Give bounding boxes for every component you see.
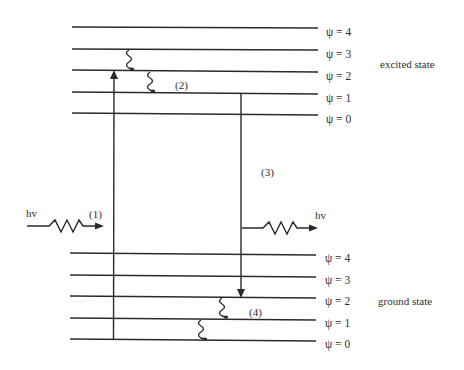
excited-level-0: [72, 113, 318, 115]
photon-in-wave: [27, 220, 98, 232]
relax-dot-ground-1: [224, 315, 228, 318]
excited-level-4: [72, 27, 318, 28]
ground-level-1: [70, 318, 316, 320]
ground-level-3-label: ψ = 3: [325, 274, 350, 286]
step-2-label: (2): [175, 79, 188, 91]
ground-level-1-label: ψ = 1: [325, 317, 350, 329]
ground-level-2: [70, 296, 316, 298]
photon-out-arrowhead: [309, 225, 318, 232]
relax-dot-excited-2: [151, 89, 155, 92]
ground-level-2-label: ψ = 2: [325, 295, 350, 307]
relax-dot-ground-2: [203, 337, 207, 340]
excited-state-label: excited state: [380, 58, 435, 70]
ground-state-label: ground state: [378, 295, 432, 307]
photon-out-wave: [242, 222, 312, 234]
ground-level-0: [70, 339, 316, 341]
excited-level-2: [72, 70, 318, 72]
ground-level-4-label: ψ = 4: [325, 252, 350, 264]
step-3-label: (3): [261, 166, 274, 178]
excited-level-1-label: ψ = 1: [326, 92, 351, 104]
emission-arrowhead: [237, 289, 245, 298]
energy-diagram: [0, 0, 464, 370]
ground-level-3: [70, 275, 316, 277]
photon-in-arrowhead: [95, 223, 104, 230]
absorption-arrow: [114, 76, 115, 339]
excited-level-4-label: ψ = 4: [326, 26, 351, 38]
excited-level-3: [72, 49, 318, 50]
step-1-label: (1): [89, 208, 102, 220]
excited-level-0-label: ψ = 0: [326, 113, 351, 125]
relax-wave-excited-2: [148, 72, 154, 91]
relax-dot-excited-1: [130, 67, 134, 70]
excited-level-3-label: ψ = 3: [326, 48, 351, 60]
photon-in-label: hv: [26, 207, 37, 219]
step-4-label: (4): [249, 306, 262, 318]
relax-wave-ground-1: [220, 298, 227, 317]
ground-level-4: [70, 253, 316, 255]
excited-level-1: [72, 92, 318, 94]
relax-wave-ground-2: [199, 320, 206, 339]
excited-level-2-label: ψ = 2: [326, 70, 351, 82]
relax-wave-excited-1: [127, 50, 133, 69]
absorption-arrowhead: [110, 70, 118, 79]
ground-level-0-label: ψ = 0: [325, 338, 350, 350]
photon-out-label: hv: [315, 209, 326, 221]
